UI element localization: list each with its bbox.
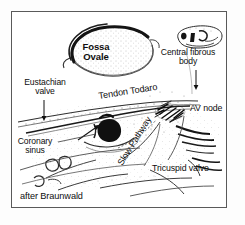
label-coronary-sinus: Coronary sinus	[8, 137, 62, 155]
label-attribution: after Braunwald	[20, 192, 83, 201]
label-fossa-ovale-line2: Ovale	[74, 52, 118, 62]
label-central-fibrous-body-line2: body	[150, 57, 226, 66]
label-tricuspid-valve: Tricuspid valve	[152, 164, 209, 173]
label-eustachian-valve: Eustachian valve	[14, 78, 76, 96]
label-central-fibrous-body: Central fibrous body	[150, 48, 226, 66]
central-fibrous-body-sketch	[178, 26, 222, 48]
figure-root: Fossa Ovale Central fibrous body Eustach…	[0, 0, 245, 225]
label-fossa-ovale: Fossa Ovale	[74, 42, 118, 61]
label-av-node: AV node	[190, 104, 222, 113]
label-coronary-sinus-line2: sinus	[8, 146, 62, 155]
label-eustachian-valve-line2: valve	[14, 87, 76, 96]
